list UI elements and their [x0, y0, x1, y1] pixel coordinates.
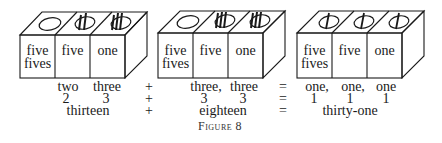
face-label-five-fives: five fives	[158, 44, 193, 70]
total-thirteen: thirteen	[67, 104, 110, 117]
three-glyph-icon	[249, 12, 271, 29]
total-thirty-one: thirty-one	[322, 104, 377, 117]
three-glyph-icon	[110, 13, 132, 31]
zero-glyph-icon	[38, 16, 62, 32]
face-label-five: five	[332, 44, 367, 57]
label-line: five	[193, 44, 228, 57]
one-glyph-icon	[353, 13, 375, 30]
total-eighteen: eighteen	[199, 104, 246, 117]
three-glyph-icon	[214, 12, 236, 29]
two-glyph-icon	[74, 13, 96, 31]
face-label-five: five	[55, 44, 90, 57]
face-label-one: one	[228, 44, 263, 57]
label-line: one	[90, 44, 125, 57]
face-label-five: five	[193, 44, 228, 57]
face-label-one: one	[90, 44, 125, 57]
label-line: five	[332, 44, 367, 57]
equals-sign: =	[279, 104, 287, 117]
label-line: one	[228, 44, 263, 57]
face-label-five-fives: five fives	[20, 44, 55, 70]
label-line: fives	[297, 57, 332, 70]
face-label-one: one	[367, 44, 402, 57]
figure-caption: Figure 8	[198, 119, 242, 134]
zero-glyph-icon	[176, 14, 200, 30]
face-label-five-fives: five fives	[297, 44, 332, 70]
one-glyph-icon	[318, 13, 340, 30]
equation-row-totals: thirteen + eighteen = thirty-one	[0, 104, 442, 117]
label-line: one	[367, 44, 402, 57]
label-line: fives	[20, 57, 55, 70]
label-line: five	[55, 44, 90, 57]
plus-sign: +	[145, 104, 153, 117]
label-line: fives	[158, 57, 193, 70]
one-glyph-icon	[388, 13, 410, 30]
abacus-boxes-drawing	[0, 0, 442, 80]
